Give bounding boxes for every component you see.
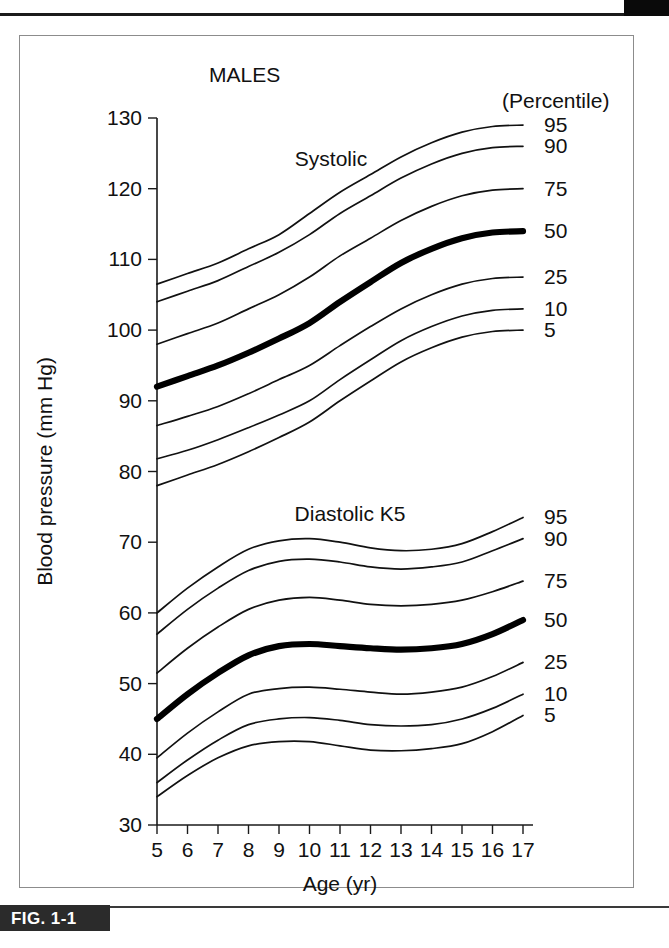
x-tick-label-5: 5 — [151, 838, 163, 861]
curve-diastolic-k5-p75 — [157, 581, 523, 673]
males-label: MALES — [209, 63, 280, 86]
chart-curves — [157, 125, 523, 797]
y-tick-label-80: 80 — [119, 460, 142, 483]
percentile-label-diastolic-k5-p50: 50 — [544, 608, 567, 631]
y-tick-label-60: 60 — [119, 601, 142, 624]
page-root: 3040506070809010011012013056789101112131… — [0, 0, 669, 948]
x-tick-label-7: 7 — [212, 838, 224, 861]
percentile-label-diastolic-k5-p75: 75 — [544, 569, 567, 592]
x-tick-label-9: 9 — [273, 838, 285, 861]
x-tick-label-6: 6 — [182, 838, 194, 861]
curve-diastolic-k5-p10 — [157, 694, 523, 782]
y-tick-label-120: 120 — [107, 177, 142, 200]
percentile-label-diastolic-k5-p90: 90 — [544, 527, 567, 550]
curve-diastolic-k5-p90 — [157, 539, 523, 634]
percentile-label-diastolic-k5-p95: 95 — [544, 505, 567, 528]
x-tick-label-12: 12 — [359, 838, 382, 861]
y-tick-label-130: 130 — [107, 106, 142, 129]
y-tick-label-110: 110 — [109, 247, 142, 270]
percentile-label-systolic-p10: 10 — [544, 297, 567, 320]
y-tick-label-70: 70 — [119, 530, 142, 553]
percentile-label-systolic-p5: 5 — [544, 318, 556, 341]
x-tick-label-10: 10 — [298, 838, 321, 861]
y-tick-label-40: 40 — [119, 742, 142, 765]
percentile-label-systolic-p75: 75 — [544, 177, 567, 200]
percentile-label-systolic-p95: 95 — [544, 113, 567, 136]
percentile-label-diastolic-k5-p10: 10 — [544, 682, 567, 705]
caption-label: FIG. 1-1 — [11, 909, 77, 929]
curve-systolic-p75 — [157, 189, 523, 345]
x-tick-label-16: 16 — [481, 838, 504, 861]
x-axis-title: Age (yr) — [303, 872, 378, 895]
x-tick-label-15: 15 — [450, 838, 473, 861]
curve-diastolic-k5-p50 — [157, 620, 523, 719]
curve-systolic-p50 — [157, 231, 523, 387]
percentile-label-diastolic-k5-p5: 5 — [544, 703, 556, 726]
x-tick-label-11: 11 — [329, 838, 351, 861]
curve-systolic-p10 — [157, 309, 523, 459]
y-tick-label-50: 50 — [119, 672, 142, 695]
chart-axes: 3040506070809010011012013056789101112131… — [33, 106, 535, 895]
figure-caption: FIG. 1-1 — [0, 905, 669, 939]
curve-diastolic-k5-p5 — [157, 715, 523, 796]
chart-annotations: 95907550251059590755025105(Percentile)MA… — [209, 63, 609, 726]
systolic-label: Systolic — [295, 147, 367, 170]
percentile-header: (Percentile) — [502, 89, 609, 112]
x-tick-label-13: 13 — [389, 838, 412, 861]
blood-pressure-chart: 3040506070809010011012013056789101112131… — [0, 0, 669, 948]
percentile-label-systolic-p50: 50 — [544, 219, 567, 242]
y-tick-label-100: 100 — [107, 318, 142, 341]
x-tick-label-17: 17 — [511, 838, 534, 861]
y-tick-label-90: 90 — [119, 389, 142, 412]
y-axis-title: Blood pressure (mm Hg) — [33, 357, 56, 586]
x-tick-label-8: 8 — [243, 838, 255, 861]
x-tick-label-14: 14 — [420, 838, 444, 861]
caption-rule — [110, 906, 669, 908]
y-tick-label-30: 30 — [119, 813, 142, 836]
percentile-label-systolic-p25: 25 — [544, 265, 567, 288]
percentile-label-diastolic-k5-p25: 25 — [544, 650, 567, 673]
diastolic-label: Diastolic K5 — [295, 502, 406, 525]
percentile-label-systolic-p90: 90 — [544, 134, 567, 157]
